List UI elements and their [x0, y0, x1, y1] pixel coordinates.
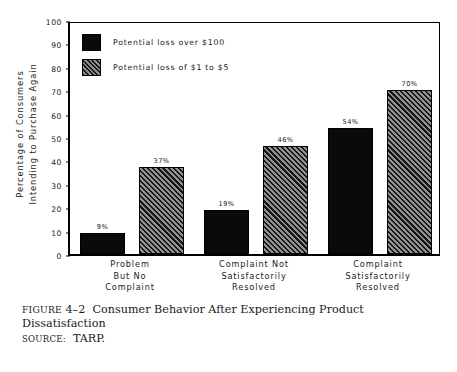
- x-axis-category-label-line: Resolved: [316, 282, 440, 294]
- bar-value-label: 19%: [219, 200, 235, 208]
- bar-value-label: 46%: [278, 136, 294, 144]
- caption-source-label: SOURCE:: [22, 334, 66, 344]
- x-axis-category-label-line: Complaint Not: [192, 259, 316, 271]
- x-axis-category-label-line: Problem: [68, 259, 192, 271]
- plot-area: Potential loss over $100 Potential loss …: [68, 22, 440, 256]
- bar-value-label: 9%: [97, 223, 108, 231]
- y-axis-tick-label: 10: [51, 228, 62, 237]
- caption-figure-number: 4–2: [65, 303, 85, 316]
- bar-value-label: 70%: [402, 80, 418, 88]
- caption-source-line: SOURCE: TARP.: [22, 332, 442, 346]
- figure-container: Percentage of Consumers Intending to Pur…: [0, 0, 457, 372]
- x-axis-category-label-line: Complaint: [68, 282, 192, 294]
- caption-figure-label: FIGURE: [22, 304, 62, 315]
- bar-group: 54%70%: [318, 23, 442, 254]
- bar[interactable]: 9%: [80, 233, 125, 254]
- bar-group: 9%37%: [70, 23, 194, 254]
- plot-inner: Potential loss over $100 Potential loss …: [70, 23, 439, 254]
- y-axis-tick-label: 50: [51, 135, 62, 144]
- y-axis-tick-label: 40: [51, 158, 62, 167]
- y-axis-tick-label: 60: [51, 111, 62, 120]
- bar-group: 19%46%: [194, 23, 318, 254]
- y-axis-title-line-2: Intending to Purchase Again: [28, 63, 38, 204]
- caption-source-value: TARP.: [73, 332, 105, 345]
- y-axis-tick-label: 30: [51, 181, 62, 190]
- x-axis-category-label: ProblemBut NoComplaint: [68, 259, 192, 294]
- y-axis-title: Percentage of Consumers Intending to Pur…: [0, 0, 40, 268]
- y-axis-tick-label: 20: [51, 205, 62, 214]
- x-axis-category-labels: ProblemBut NoComplaintComplaint NotSatis…: [68, 259, 440, 303]
- figure-caption: FIGURE 4–2 Consumer Behavior After Exper…: [22, 303, 442, 346]
- bar[interactable]: 54%: [328, 128, 373, 254]
- x-axis-category-label-line: Resolved: [192, 282, 316, 294]
- y-axis-tick-label: 0: [57, 252, 62, 261]
- caption-main-line: FIGURE 4–2 Consumer Behavior After Exper…: [22, 303, 442, 330]
- bar[interactable]: 70%: [387, 90, 432, 254]
- y-axis-tick-label: 90: [51, 41, 62, 50]
- y-axis-title-line-1: Percentage of Consumers: [15, 70, 25, 197]
- bar-value-label: 37%: [154, 157, 170, 165]
- bar[interactable]: 19%: [204, 210, 249, 254]
- y-axis-tick-label: 100: [46, 18, 62, 27]
- x-axis-category-label-line: But No: [68, 271, 192, 283]
- bar-value-label: 54%: [343, 118, 359, 126]
- bar[interactable]: 46%: [263, 146, 308, 254]
- x-axis-category-label-line: Complaint: [316, 259, 440, 271]
- y-axis-tick-label: 80: [51, 64, 62, 73]
- x-axis-category-label: ComplaintSatisfactorilyResolved: [316, 259, 440, 294]
- x-axis-category-label: Complaint NotSatisfactorilyResolved: [192, 259, 316, 294]
- bar[interactable]: 37%: [139, 167, 184, 254]
- y-axis-tick-labels: 0102030405060708090100: [40, 22, 66, 256]
- y-axis-tick-label: 70: [51, 88, 62, 97]
- x-axis-category-label-line: Satisfactorily: [316, 271, 440, 283]
- x-axis-category-label-line: Satisfactorily: [192, 271, 316, 283]
